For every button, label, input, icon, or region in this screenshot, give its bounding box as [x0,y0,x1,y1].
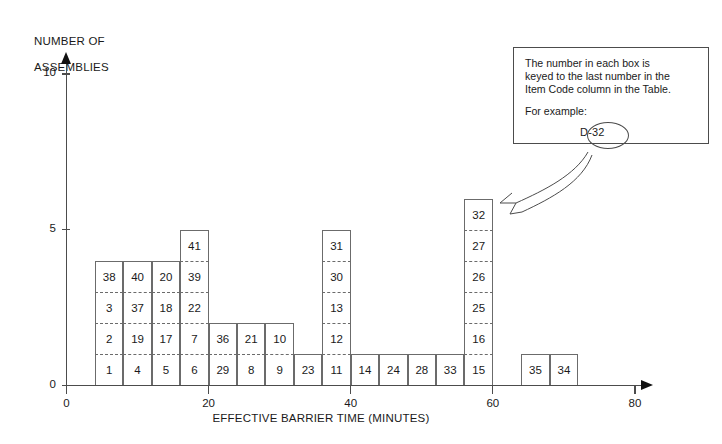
unit-cell-item-1: 1 [95,354,123,385]
x-axis-tick-label-80: 80 [620,397,650,409]
unit-cell-item-2: 2 [95,323,123,354]
y-axis-tick-label-10: 10 [30,66,56,78]
unit-cell-item-12: 12 [322,323,350,354]
unit-cell-item-15: 15 [464,354,492,385]
unit-cell-item-40: 40 [123,261,151,292]
unit-cell-item-23: 23 [294,354,322,385]
unit-cell-item-10: 10 [265,323,293,354]
unit-cell-item-41: 41 [180,230,208,261]
unit-cell-item-26: 26 [464,261,492,292]
unit-cell-item-3: 3 [95,292,123,323]
callout-example-row: D-32 [525,124,697,146]
x-axis-title: EFFECTIVE BARRIER TIME (MINUTES) [0,412,682,424]
x-axis-tick-80 [634,385,635,394]
unit-cell-item-16: 16 [464,323,492,354]
unit-cell-item-29: 29 [209,354,237,385]
unit-cell-item-5: 5 [152,354,180,385]
y-axis-tick-10 [62,73,70,74]
unit-cell-item-22: 22 [180,292,208,323]
callout-example-highlight-ellipse [587,122,629,149]
chart-canvas: NUMBER OF ASSEMBLIES 0510020406080123384… [0,0,722,444]
unit-cell-item-4: 4 [123,354,151,385]
unit-cell-item-34: 34 [550,354,578,385]
y-axis-tick-label-5: 5 [30,222,56,234]
unit-cell-item-36: 36 [209,323,237,354]
callout-box: The number in each box is keyed to the l… [513,47,709,144]
x-axis-tick-label-20: 20 [194,397,224,409]
unit-cell-item-6: 6 [180,354,208,385]
x-axis-tick-label-40: 40 [336,397,366,409]
unit-cell-item-24: 24 [379,354,407,385]
x-axis-tick-label-0: 0 [52,397,82,409]
unit-cell-item-18: 18 [152,292,180,323]
unit-cell-item-28: 28 [408,354,436,385]
unit-cell-item-37: 37 [123,292,151,323]
x-axis-tick-20 [208,385,209,394]
unit-cell-item-35: 35 [521,354,549,385]
unit-cell-item-17: 17 [152,323,180,354]
callout-line-4: For example: [525,105,697,118]
unit-cell-item-19: 19 [123,323,151,354]
y-axis-tick-label-0: 0 [30,378,56,390]
callout-line-1: The number in each box is [525,57,697,70]
callout-spacer [525,97,697,105]
unit-cell-item-30: 30 [322,261,350,292]
y-axis-tick-5 [62,229,70,230]
unit-cell-item-7: 7 [180,323,208,354]
unit-cell-item-33: 33 [436,354,464,385]
unit-cell-item-20: 20 [152,261,180,292]
unit-cell-item-27: 27 [464,230,492,261]
unit-cell-item-11: 11 [322,354,350,385]
callout-line-2: keyed to the last number in the [525,70,697,83]
x-axis-tick-40 [350,385,351,394]
x-axis-tick-label-60: 60 [478,397,508,409]
unit-cell-item-9: 9 [265,354,293,385]
unit-cell-item-21: 21 [237,323,265,354]
callout-line-3: Item Code column in the Table. [525,83,697,96]
unit-cell-item-8: 8 [237,354,265,385]
unit-cell-item-25: 25 [464,292,492,323]
unit-cell-item-39: 39 [180,261,208,292]
unit-cell-item-32: 32 [464,199,492,230]
unit-cell-item-13: 13 [322,292,350,323]
unit-cell-item-14: 14 [351,354,379,385]
x-axis-tick-60 [492,385,493,394]
unit-cell-item-31: 31 [322,230,350,261]
unit-cell-item-38: 38 [95,261,123,292]
x-axis-tick-0 [66,385,67,394]
